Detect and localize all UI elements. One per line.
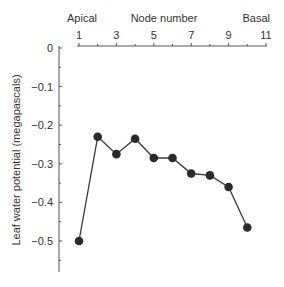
data-point (93, 132, 102, 141)
data-point (131, 134, 140, 143)
data-point (168, 154, 177, 163)
data-point (112, 150, 121, 159)
x-axis-left-label: Apical (67, 12, 97, 24)
line-chart: Apical Node number Basal Leaf water pote… (0, 0, 284, 287)
y-tick-label: −0.1 (31, 81, 53, 93)
x-axis-title: Node number (131, 12, 198, 24)
y-axis-title: Leaf water potential (megapascals) (10, 74, 22, 245)
data-line (79, 137, 247, 241)
y-tick-label: −0.2 (31, 119, 53, 131)
data-series (75, 132, 252, 245)
data-point (243, 223, 252, 232)
x-tick-label: 1 (76, 29, 82, 41)
x-tick-label: 7 (188, 29, 194, 41)
y-tick-label: −0.3 (31, 158, 53, 170)
y-tick-label: −0.4 (31, 196, 53, 208)
data-point (75, 237, 84, 246)
data-point (206, 171, 215, 180)
y-axis: 0−0.1−0.2−0.3−0.4−0.5 (31, 42, 62, 272)
x-tick-label: 5 (151, 29, 157, 41)
x-axis: 1357911 (76, 29, 272, 46)
y-tick-label: 0 (47, 42, 53, 54)
data-point (187, 169, 196, 178)
data-point (150, 154, 159, 163)
x-axis-right-label: Basal (242, 12, 270, 24)
data-point (224, 183, 233, 192)
x-tick-label: 9 (226, 29, 232, 41)
x-tick-label: 11 (260, 29, 271, 41)
x-tick-label: 3 (113, 29, 119, 41)
y-tick-label: −0.5 (31, 235, 53, 247)
